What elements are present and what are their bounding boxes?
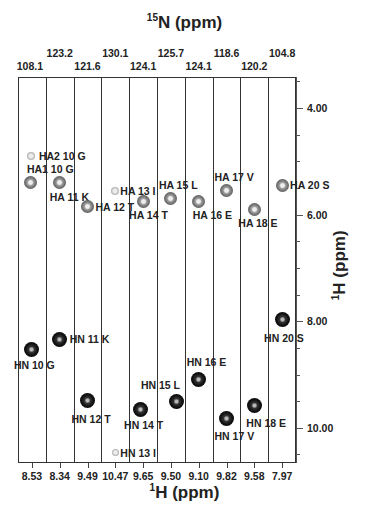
y-tick-label: 8.00 <box>307 315 327 327</box>
peak-label: HA 18 E <box>238 217 277 229</box>
strip-divider <box>46 77 47 463</box>
nitrogen-tick-label: 124.1 <box>123 60 163 72</box>
axis-title-text: H (ppm) <box>330 230 349 294</box>
peak-label: HN 12 T <box>72 413 111 425</box>
ha-peak <box>137 195 150 208</box>
x-tick-mark <box>199 463 200 468</box>
y-tick-label: 4.00 <box>307 102 327 114</box>
nitrogen-tick-label: 123.2 <box>40 47 80 59</box>
peak-label: HN 15 L <box>141 379 180 391</box>
ha-peak <box>111 187 119 195</box>
ha-peak <box>276 179 289 192</box>
hn-peak <box>133 402 148 417</box>
strip-divider <box>129 77 130 463</box>
peak-label: HN 20 S <box>264 332 304 344</box>
superscript: 15 <box>147 12 158 23</box>
ha-peak <box>27 152 35 160</box>
proton-tick-label: 7.97 <box>262 470 302 482</box>
strip-divider <box>240 77 241 463</box>
nitrogen-tick-label: 124.1 <box>179 60 219 72</box>
nitrogen-tick-label: 120.2 <box>234 60 274 72</box>
peak-label: HN 14 T <box>124 419 163 431</box>
y-axis-title: 1H (ppm) <box>330 230 351 300</box>
strip-divider <box>213 77 214 463</box>
hn-peak <box>275 312 290 327</box>
y-minor-tick <box>296 454 300 455</box>
hn-peak <box>169 394 184 409</box>
y-minor-tick <box>296 348 300 349</box>
strip-divider <box>74 77 75 463</box>
nitrogen-tick-label: 125.7 <box>151 47 191 59</box>
peak-label: HA 16 E <box>193 209 232 221</box>
y-major-tick <box>296 428 303 429</box>
strip-divider <box>185 77 186 463</box>
y-minor-tick <box>296 401 300 402</box>
x-tick-mark <box>143 463 144 468</box>
y-minor-tick <box>296 375 300 376</box>
y-tick-label: 6.00 <box>307 209 327 221</box>
peak-label: HN 11 K <box>70 333 110 345</box>
peak-label: HA 14 T <box>129 209 168 221</box>
x-tick-mark <box>88 463 89 468</box>
peak-label: HA 17 V <box>215 171 254 183</box>
x-tick-mark <box>171 463 172 468</box>
nitrogen-tick-label: 108.1 <box>10 60 50 72</box>
peak-label: HN 18 E <box>246 417 286 429</box>
nitrogen-tick-label: 118.6 <box>207 47 247 59</box>
y-minor-tick <box>296 268 300 269</box>
x-tick-mark <box>32 463 33 468</box>
strip-divider <box>268 77 269 463</box>
x-tick-mark <box>282 463 283 468</box>
superscript: 1 <box>330 295 341 301</box>
peak-label: HN 13 I <box>120 447 156 459</box>
y-minor-tick <box>296 81 300 82</box>
proton-axis-title: 1H (ppm) <box>0 482 369 503</box>
x-tick-mark <box>115 463 116 468</box>
strip-divider <box>101 77 102 463</box>
x-tick-mark <box>60 463 61 468</box>
y-major-tick <box>296 108 303 109</box>
y-minor-tick <box>296 135 300 136</box>
nitrogen-axis-title: 15N (ppm) <box>0 12 369 33</box>
x-tick-mark <box>254 463 255 468</box>
axis-title-text: N (ppm) <box>158 13 222 32</box>
hn-peak <box>247 398 262 413</box>
strip-divider <box>157 77 158 463</box>
peak-label: HN 10 G <box>14 359 55 371</box>
ha-peak <box>81 200 94 213</box>
hn-peak <box>52 332 67 347</box>
peak-label: HA 15 L <box>159 179 198 191</box>
x-tick-mark <box>227 463 228 468</box>
nitrogen-tick-label: 121.6 <box>68 60 108 72</box>
nitrogen-tick-label: 104.8 <box>262 47 302 59</box>
y-minor-tick <box>296 161 300 162</box>
peak-label: HA 20 S <box>290 179 329 191</box>
peak-label: HN 16 E <box>187 356 227 368</box>
peak-label: HA1 10 G <box>27 163 74 175</box>
y-major-tick <box>296 321 303 322</box>
peak-label: HA 13 I <box>120 185 155 197</box>
peak-label: HN 17 V <box>215 430 255 442</box>
axis-title-text: H (ppm) <box>155 483 219 502</box>
ha-peak <box>192 195 205 208</box>
y-minor-tick <box>296 295 300 296</box>
peak-label: HA2 10 G <box>39 150 86 162</box>
ha-peak <box>248 203 261 216</box>
y-major-tick <box>296 215 303 216</box>
y-minor-tick <box>296 241 300 242</box>
hn-peak <box>219 411 234 426</box>
nitrogen-tick-label: 130.1 <box>95 47 135 59</box>
y-tick-label: 10.00 <box>307 422 333 434</box>
